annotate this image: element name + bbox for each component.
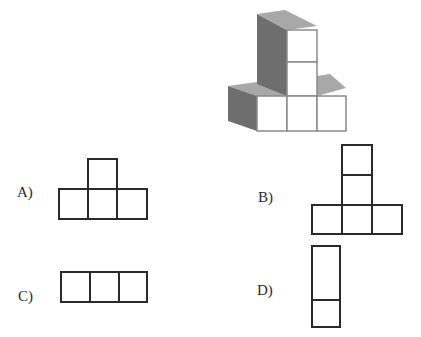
bottom-right-front-face [317,96,346,131]
option-b-label: B) [258,190,273,205]
option-d-shape[interactable] [312,246,340,327]
option-c-label: C) [18,289,33,304]
bottom-middle-front-face [287,96,317,131]
cube-figure [228,10,346,131]
bottom-left-front-face [257,96,287,131]
option-a-label: A) [17,185,33,200]
tower-front-face-middle [287,62,317,96]
diagram-canvas [0,0,421,337]
option-b-shape[interactable] [312,145,402,234]
right-cube-top-face [317,74,346,96]
option-d-label: D) [257,283,273,298]
option-c-shape[interactable] [61,272,147,302]
tower-front-face-top [287,30,317,62]
option-a-shape[interactable] [59,159,147,219]
